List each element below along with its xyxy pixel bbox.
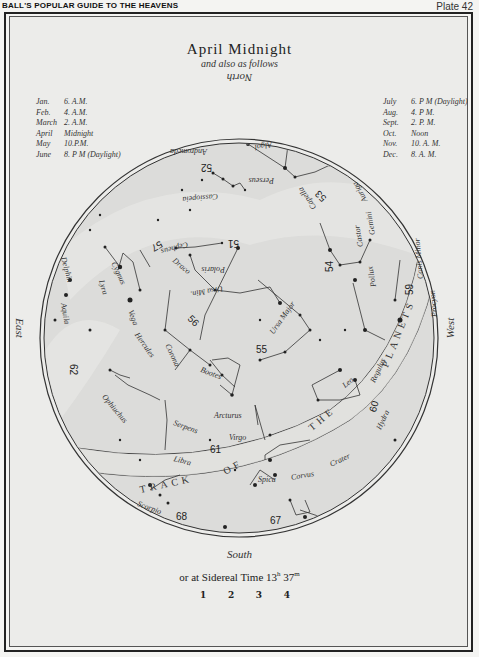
region-62: 62: [68, 364, 79, 376]
region-67: 67: [270, 515, 282, 526]
label-polaris: Polaris: [201, 265, 226, 274]
label-perseus: Perseus: [249, 176, 275, 185]
region-55: 55: [256, 344, 268, 355]
region-59: 59: [404, 283, 415, 295]
label-andromeda: Andromeda: [170, 147, 208, 156]
magnitude-3: 3: [256, 590, 262, 600]
magnitude-4: 4: [284, 590, 290, 600]
label-virgo: Virgo: [229, 433, 246, 442]
label-arcturus: Arcturus: [213, 411, 242, 420]
magnitude-1: 1: [200, 590, 206, 600]
region-51: 51: [227, 238, 239, 249]
south-label: South: [0, 548, 479, 560]
east-label: East: [14, 318, 26, 338]
sidereal-minute-unit: m: [294, 570, 299, 578]
magnitude-2: 2: [228, 590, 234, 600]
magnitude-key: 1 2 3 4: [200, 590, 290, 600]
sidereal-prefix: or at Sidereal Time 13: [179, 571, 277, 583]
region-52: 52: [200, 162, 212, 173]
region-61: 61: [210, 444, 222, 455]
sidereal-minutes: 37: [281, 571, 295, 583]
west-label: West: [444, 318, 456, 338]
region-54: 54: [324, 260, 335, 272]
sidereal-time: or at Sidereal Time 13h 37m: [0, 570, 479, 583]
label-algol: Algol: [253, 140, 273, 152]
region-68: 68: [176, 511, 188, 522]
label-procyon: Procyon: [428, 290, 439, 318]
label-spica: Spica: [258, 475, 276, 484]
